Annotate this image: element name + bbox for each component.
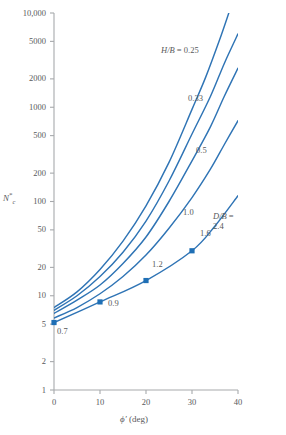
curve-annotation-1-2: 1.2 [152,260,163,270]
curve-annotation-0-7: 0.7 [57,327,68,337]
annotation-value: 2.4 [213,221,224,231]
curve-annotation-1-0: 1.0 [183,208,194,218]
curve-annotation-hb: H/B = 0.25 [161,46,199,56]
chart-axes [50,13,238,394]
curve-annotation-0-9: 0.9 [108,299,119,309]
annotation-prefix: H/B [161,45,175,55]
x-axis-title-unit: (deg) [129,414,148,424]
y-tick-label: 2 [0,357,46,366]
y-tick-label: 100 [0,197,46,206]
curve-annotation-1-6: 1.6 [200,229,211,239]
x-axis-title-symbol: ϕ′ [120,414,127,424]
x-tick-label: 10 [80,398,120,407]
x-tick-label: 0 [34,398,74,407]
annotation-equals: = [175,45,184,55]
y-tick-label: 1000 [0,103,46,112]
x-tick-label: 20 [126,398,166,407]
annotation-equals: = [227,211,234,221]
curve-annotation-0-33: 0.33 [188,94,203,104]
curve-annotation-0-5: 0.5 [196,146,207,156]
y-tick-label: 5 [0,320,46,329]
curve-annotation-db: D/B =2.4 [213,212,234,232]
y-tick-label: 10,000 [0,9,46,18]
y-tick-label: 50 [0,225,46,234]
y-tick-label: 1 [0,386,46,395]
y-tick-label: 20 [0,263,46,272]
annotation-value: 0.25 [184,45,199,55]
y-tick-label: 2000 [0,74,46,83]
annotation-prefix: D/B [213,211,227,221]
y-tick-label: 10 [0,291,46,300]
y-tick-label: 500 [0,131,46,140]
chart-curves [54,13,238,323]
x-tick-label: 30 [172,398,212,407]
x-tick-label: 40 [218,398,258,407]
y-tick-label: 5000 [0,37,46,46]
y-tick-label: 200 [0,169,46,178]
x-axis-title: ϕ′ (deg) [120,414,148,424]
chart-figure: N*c ϕ′ (deg) 125102050100200500100020005… [0,0,286,435]
chart-svg [0,0,286,435]
